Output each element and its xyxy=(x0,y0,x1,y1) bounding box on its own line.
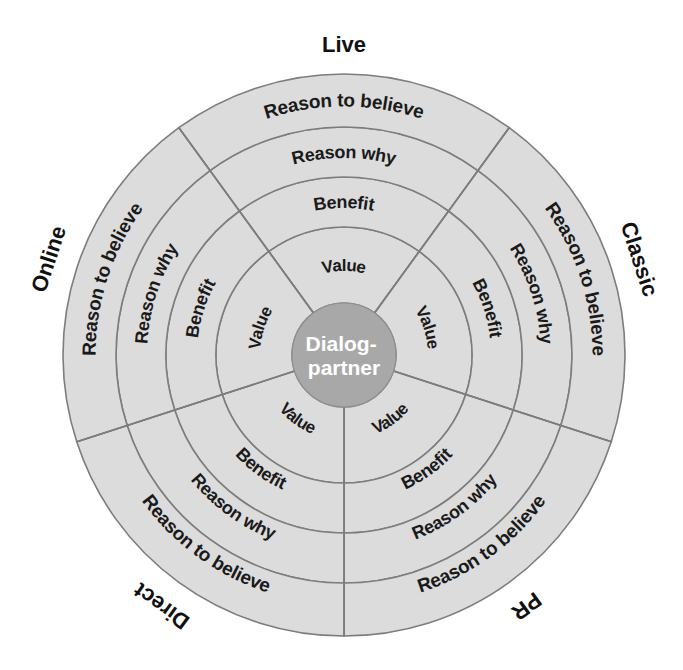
sector-label-live: Live xyxy=(322,32,366,57)
hub-label: Dialog- partner xyxy=(305,332,382,379)
sector-label-pr: PR xyxy=(507,587,547,625)
ring-label-live-benefit: Benefit xyxy=(312,192,376,215)
wheel-svg: ValueBenefitReason whyReason to believeV… xyxy=(0,0,683,670)
hub-label-line2: partner xyxy=(308,356,380,379)
hub-circle xyxy=(292,303,396,407)
sector-label-online: Online xyxy=(26,223,71,296)
hub-label-line1: Dialog- xyxy=(305,332,376,355)
hub-group: Dialog- partner xyxy=(292,303,396,407)
dialog-partner-wheel-diagram: ValueBenefitReason whyReason to believeV… xyxy=(0,0,683,670)
sector-label-classic: Classic xyxy=(616,218,664,299)
ring-label-live-value: Value xyxy=(320,256,368,278)
